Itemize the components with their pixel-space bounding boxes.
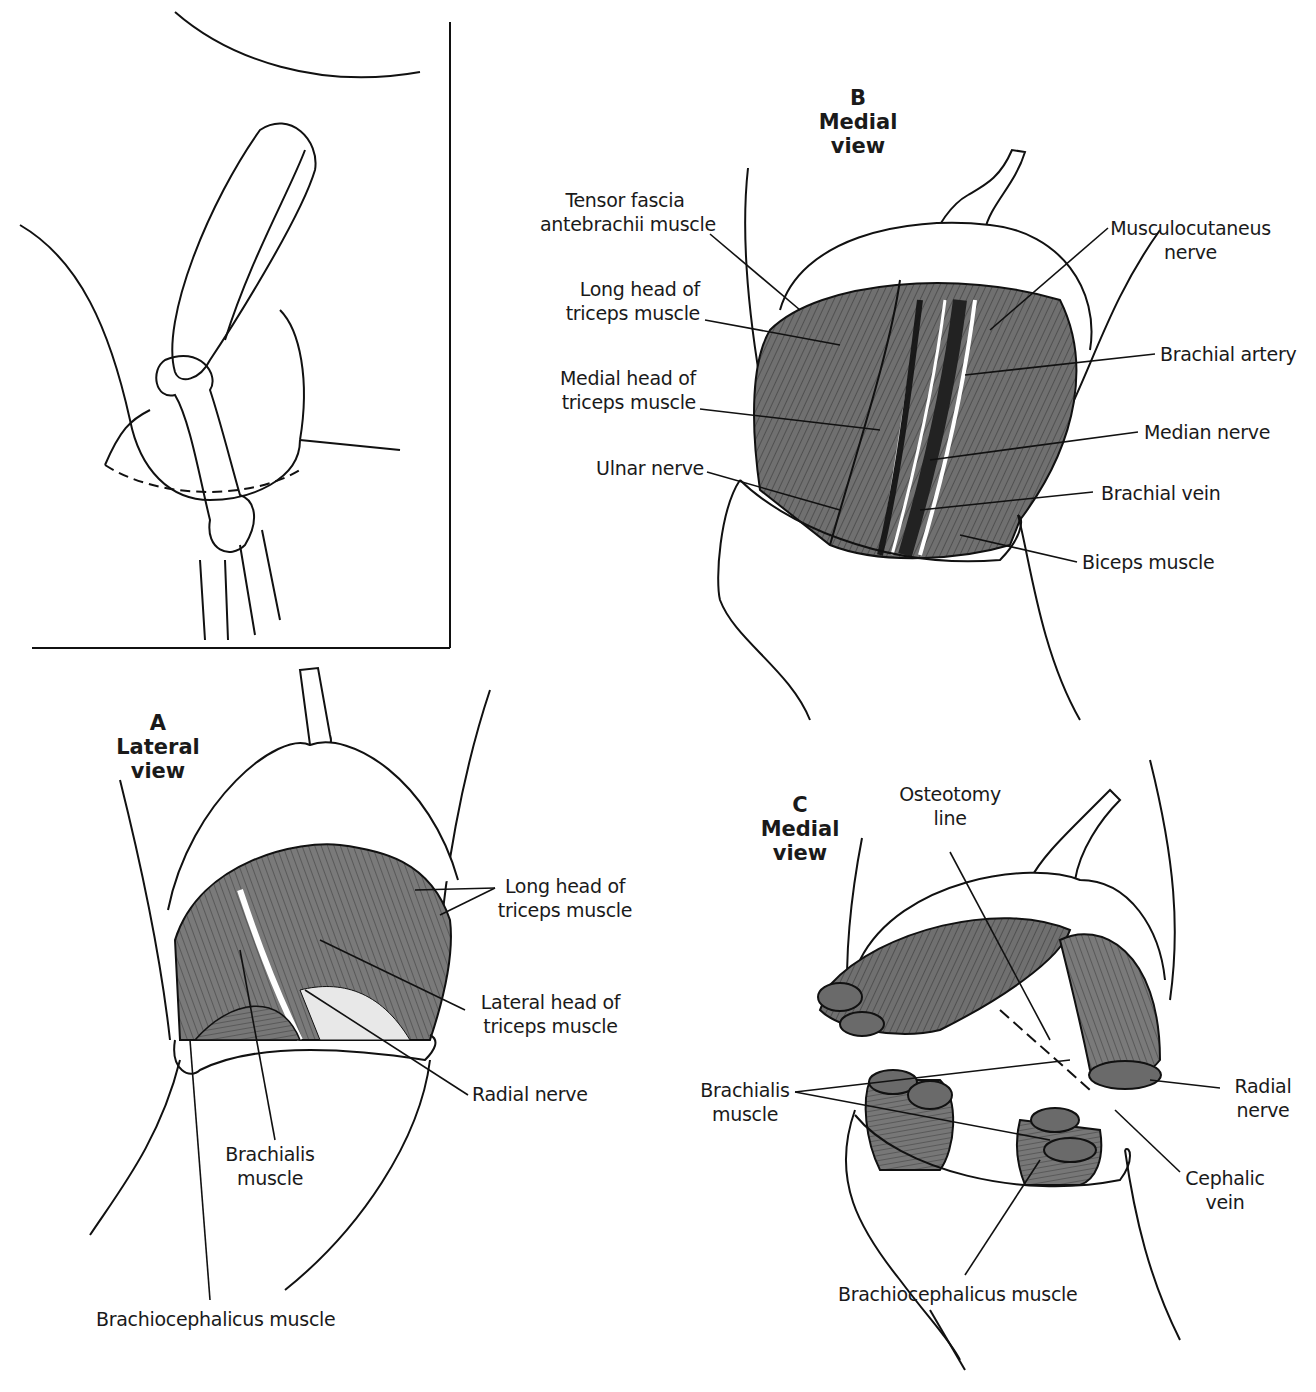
inset-skeleton-drawing [20, 12, 450, 648]
label-osteotomy-line: Osteotomy line [890, 782, 1010, 830]
label-biceps: Biceps muscle [1082, 550, 1214, 574]
label-tensor-fascia: Tensor fascia antebrachii muscle [540, 188, 710, 236]
label-musculocutaneus: Musculocutaneus nerve [1108, 216, 1273, 264]
panel-a-letter: A [113, 711, 203, 735]
label-radial-nerve-c: Radial nerve [1218, 1074, 1308, 1122]
panel-b-drawing [718, 150, 1160, 720]
panel-b-title: B Medial view [818, 86, 898, 158]
panel-c-title-line1: Medial [755, 817, 845, 841]
label-medial-head: Medial head of triceps muscle [548, 366, 696, 414]
panel-a-title: A Lateral view [113, 711, 203, 783]
label-brachial-vein: Brachial vein [1101, 481, 1221, 505]
label-long-head-a: Long head of triceps muscle [495, 874, 635, 922]
panel-c-title: C Medial view [755, 793, 845, 865]
panel-b-title-line1: Medial [818, 110, 898, 134]
label-cephalic-vein: Cephalic vein [1175, 1166, 1275, 1214]
label-brachial-artery: Brachial artery [1160, 342, 1296, 366]
label-brachialis-c: Brachialis muscle [695, 1078, 795, 1126]
label-ulnar-nerve: Ulnar nerve [580, 456, 704, 480]
label-median-nerve: Median nerve [1144, 420, 1270, 444]
label-lateral-head: Lateral head of triceps muscle [468, 990, 633, 1038]
panel-a-title-line1: Lateral [113, 735, 203, 759]
label-brachiocephalicus-a: Brachiocephalicus muscle [96, 1307, 335, 1331]
panel-b-title-line2: view [818, 134, 898, 158]
panel-a-title-line2: view [113, 759, 203, 783]
label-brachialis-a: Brachialis muscle [220, 1142, 320, 1190]
panel-c-letter: C [755, 793, 845, 817]
label-radial-nerve-a: Radial nerve [472, 1082, 588, 1106]
panel-b-letter: B [818, 86, 898, 110]
panel-c-title-line2: view [755, 841, 845, 865]
label-long-head-b: Long head of triceps muscle [560, 277, 700, 325]
label-brachiocephalicus-c: Brachiocephalicus muscle [838, 1282, 1077, 1306]
panel-c-drawing [818, 760, 1180, 1370]
